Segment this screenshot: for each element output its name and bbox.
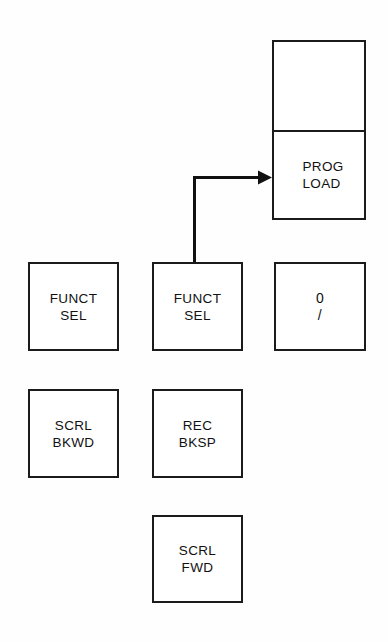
scroll-backward-key[interactable]: SCRL BKWD (28, 389, 119, 478)
zero-slash-key-label: 0 / (316, 290, 324, 322)
scroll-forward-key-line1: SCRL (179, 542, 216, 559)
prog-load-key[interactable]: PROG LOAD (272, 130, 366, 220)
blank-key[interactable] (272, 40, 366, 132)
scroll-backward-key-line2: BKWD (53, 434, 95, 451)
record-backspace-key-line2: BKSP (179, 434, 216, 451)
scroll-forward-key-line2: FWD (182, 559, 214, 576)
scroll-forward-key[interactable]: SCRL FWD (152, 515, 243, 603)
zero-slash-key[interactable]: 0 / (274, 262, 366, 351)
record-backspace-key-line1: REC (183, 417, 213, 434)
funct-sel-key-left-line2: SEL (60, 307, 87, 324)
funct-sel-key-left-line1: FUNCT (50, 290, 98, 307)
diagram-canvas: PROG LOAD FUNCT SEL FUNCT SEL 0 / SCRL B… (0, 0, 388, 642)
zero-slash-key-line1: 0 (316, 290, 324, 306)
prog-load-key-line2: LOAD (302, 175, 340, 192)
prog-load-key-line1: PROG (302, 158, 343, 175)
connector-line (195, 178, 260, 263)
zero-slash-key-line2: / (318, 307, 322, 323)
prog-load-key-label: PROG LOAD (302, 158, 343, 192)
funct-sel-key-middle-line2: SEL (184, 307, 211, 324)
funct-sel-key-left[interactable]: FUNCT SEL (28, 262, 119, 351)
funct-sel-key-middle[interactable]: FUNCT SEL (152, 262, 243, 351)
scroll-backward-key-line1: SCRL (55, 417, 92, 434)
funct-sel-key-middle-line1: FUNCT (174, 290, 222, 307)
arrowhead-icon (258, 171, 272, 185)
record-backspace-key[interactable]: REC BKSP (152, 389, 243, 478)
